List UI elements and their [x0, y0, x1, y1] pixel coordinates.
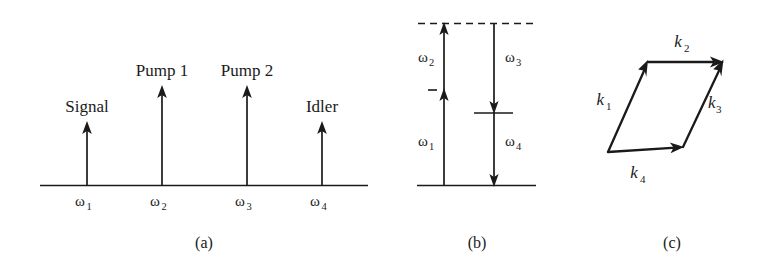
panel-b-omega4-symbol: ω — [505, 133, 515, 149]
panel-b-omega1-subscript: 1 — [429, 141, 434, 152]
panel-a-label-pump2: Pump 2 — [221, 61, 273, 80]
panel-c-label-k3: k 3 — [708, 93, 722, 115]
panel-a-arrow-pump2 — [242, 85, 252, 185]
k4-subscript: 4 — [640, 173, 646, 185]
panel-b-label-omega1: ω 1 — [418, 133, 434, 152]
panel-b-label-omega3: ω 3 — [505, 49, 521, 68]
figure-canvas: Signal Pump 1 Pump 2 Idler ω 1 ω 2 ω 3 ω… — [0, 0, 758, 270]
panel-c: k 1 k 2 k 3 k 4 (c) — [596, 32, 724, 252]
panel-c-vector-k4 — [608, 143, 684, 154]
panel-a-tick-label-omega3: ω 3 — [235, 193, 252, 212]
panel-b-arrow-omega1 — [439, 88, 448, 185]
panel-c-vector-k1 — [608, 60, 648, 152]
k3-subscript: 3 — [716, 103, 722, 115]
panel-a-arrow-idler — [317, 121, 327, 185]
panel-c-label-k2: k 2 — [674, 32, 689, 54]
k4-symbol: k — [630, 163, 638, 182]
panel-b-omega1-symbol: ω — [418, 133, 428, 149]
panel-a-label-pump1: Pump 1 — [136, 61, 188, 80]
panel-b-omega2-symbol: ω — [418, 49, 428, 65]
k3-symbol: k — [708, 93, 716, 112]
panel-b-caption: (b) — [468, 234, 487, 252]
k2-symbol: k — [674, 32, 682, 51]
k2-subscript: 2 — [684, 42, 690, 54]
panel-c-vector-k2 — [648, 57, 724, 68]
k1-shaft — [608, 68, 646, 153]
figure-root: Signal Pump 1 Pump 2 Idler ω 1 ω 2 ω 3 ω… — [0, 0, 758, 270]
omega2-subscript: 2 — [161, 201, 166, 212]
panel-c-caption: (c) — [663, 234, 681, 252]
k1-subscript: 1 — [606, 100, 612, 112]
panel-b-omega4-subscript: 4 — [516, 141, 522, 152]
panel-a-label-signal: Signal — [65, 97, 109, 116]
panel-b-arrow-omega3 — [489, 24, 498, 114]
panel-a-arrow-signal — [82, 121, 92, 185]
panel-b-arrow-omega4 — [489, 112, 498, 187]
panel-b-omega3-subscript: 3 — [516, 57, 521, 68]
panel-c-label-k1: k 1 — [596, 90, 611, 112]
panel-a-label-idler: Idler — [306, 97, 338, 116]
panel-a-arrow-pump1 — [157, 85, 167, 185]
omega1-symbol: ω — [75, 193, 85, 209]
omega1-subscript: 1 — [86, 201, 91, 212]
omega4-subscript: 4 — [321, 201, 327, 212]
omega3-subscript: 3 — [246, 201, 251, 212]
panel-b-omega3-symbol: ω — [505, 49, 515, 65]
panel-b-arrow-omega2 — [439, 22, 448, 92]
k1-symbol: k — [596, 90, 604, 109]
omega2-symbol: ω — [150, 193, 160, 209]
panel-a-caption: (a) — [195, 234, 213, 252]
panel-a-tick-label-omega2: ω 2 — [150, 193, 167, 212]
panel-c-label-k4: k 4 — [630, 163, 646, 185]
panel-a: Signal Pump 1 Pump 2 Idler ω 1 ω 2 ω 3 ω… — [40, 61, 368, 252]
panel-a-tick-label-omega4: ω 4 — [310, 193, 327, 212]
omega4-symbol: ω — [310, 193, 320, 209]
panel-b-label-omega4: ω 4 — [505, 133, 522, 152]
panel-b-omega2-subscript: 2 — [429, 57, 434, 68]
panel-b: ω 2 ω 1 ω 3 ω 4 (b) — [417, 22, 536, 252]
panel-b-label-omega2: ω 2 — [418, 49, 434, 68]
panel-a-tick-label-omega1: ω 1 — [75, 193, 92, 212]
k4-shaft — [608, 148, 676, 152]
omega3-symbol: ω — [235, 193, 245, 209]
